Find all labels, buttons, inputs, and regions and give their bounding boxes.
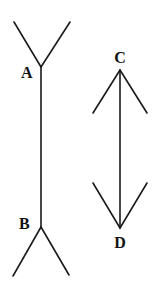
ab-top-right-fin [41,22,70,67]
figure-ab: A B [13,22,70,276]
ab-top-left-fin [14,22,41,67]
figure-cd: C D [93,49,147,251]
label-c: C [114,49,126,66]
label-b: B [19,215,30,232]
ab-bottom-right-fin [41,227,69,275]
illusion-diagram: A B C D [0,0,163,291]
cd-top-left-arrowhead [93,70,120,113]
cd-top-right-arrowhead [120,70,147,113]
label-d: D [114,234,126,251]
cd-bottom-right-arrowhead [120,183,147,228]
ab-bottom-left-fin [13,227,41,276]
cd-bottom-left-arrowhead [93,183,120,228]
label-a: A [21,64,33,81]
